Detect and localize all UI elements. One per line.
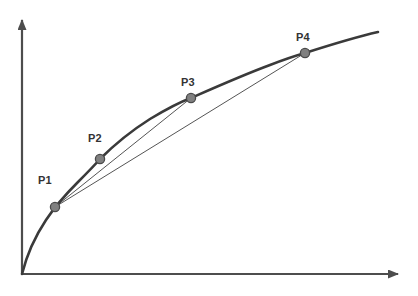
point-marker-p4 [300, 48, 309, 57]
point-label-p1: P1 [38, 174, 52, 186]
point-label-p4: P4 [296, 31, 311, 43]
secant-lines-figure: P1 P2 P3 P4 [0, 0, 418, 296]
point-label-p2: P2 [88, 132, 102, 144]
point-label-p3: P3 [181, 76, 195, 88]
point-marker-p3 [186, 93, 195, 102]
point-marker-p1 [50, 202, 59, 211]
figure-background [0, 0, 418, 296]
point-marker-p2 [95, 154, 104, 163]
